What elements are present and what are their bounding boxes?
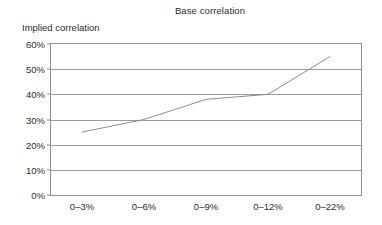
base-correlation-chart: Base correlation Implied correlation 0%1… bbox=[0, 0, 382, 225]
x-tick-label-3: 0–12% bbox=[253, 201, 283, 212]
y-tick-mark-50 bbox=[47, 69, 51, 70]
y-tick-label-40: 40% bbox=[26, 89, 45, 100]
chart-title: Base correlation bbox=[0, 5, 382, 16]
y-tick-label-50: 50% bbox=[26, 64, 45, 75]
y-tick-label-10: 10% bbox=[26, 164, 45, 175]
y-tick-label-30: 30% bbox=[26, 114, 45, 125]
gridline-30 bbox=[51, 120, 361, 121]
y-tick-mark-40 bbox=[47, 94, 51, 95]
y-tick-label-20: 20% bbox=[26, 139, 45, 150]
y-tick-label-0: 0% bbox=[31, 190, 45, 201]
plot-area: 0%10%20%30%40%50%60% 0–3%0–6%0–9%0–12%0–… bbox=[50, 43, 362, 196]
y-tick-mark-0 bbox=[47, 195, 51, 196]
gridline-50 bbox=[51, 69, 361, 70]
x-tick-label-4: 0–22% bbox=[315, 201, 345, 212]
y-tick-mark-60 bbox=[47, 44, 51, 45]
y-tick-mark-10 bbox=[47, 169, 51, 170]
y-tick-mark-20 bbox=[47, 144, 51, 145]
y-tick-label-60: 60% bbox=[26, 39, 45, 50]
y-axis-label: Implied correlation bbox=[22, 22, 100, 33]
y-tick-mark-30 bbox=[47, 119, 51, 120]
gridline-10 bbox=[51, 170, 361, 171]
gridline-20 bbox=[51, 145, 361, 146]
gridline-40 bbox=[51, 94, 361, 95]
x-tick-label-0: 0–3% bbox=[70, 201, 94, 212]
x-tick-label-2: 0–9% bbox=[194, 201, 218, 212]
x-tick-label-1: 0–6% bbox=[132, 201, 156, 212]
